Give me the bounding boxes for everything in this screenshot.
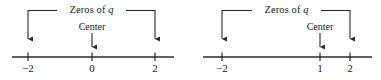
- zeros-of-q-label-variable: q: [303, 4, 308, 15]
- number-line-figure: Zeros of q Center −2 0 2 Zeros of q Cent…: [0, 0, 381, 80]
- tick-label: 2: [347, 63, 353, 74]
- figure-graphics: [0, 0, 381, 80]
- zeros-of-q-label: Zeros of q: [264, 5, 308, 16]
- zeros-of-q-label-variable: q: [108, 4, 113, 15]
- tick-label: 0: [89, 63, 95, 74]
- zeros-of-q-label: Zeros of q: [69, 5, 113, 16]
- diagram-left: [12, 11, 174, 62]
- center-label: Center: [79, 22, 106, 32]
- diagram-right: [203, 11, 372, 62]
- tick-label: −2: [22, 63, 34, 74]
- tick-label: 1: [317, 63, 323, 74]
- tick-label: −2: [216, 63, 228, 74]
- tick-label: 2: [152, 63, 158, 74]
- zeros-of-q-label-text: Zeros of: [69, 4, 108, 15]
- center-label: Center: [307, 22, 334, 32]
- zeros-of-q-label-text: Zeros of: [264, 4, 303, 15]
